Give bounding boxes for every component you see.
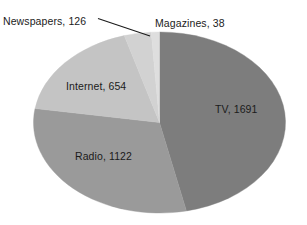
pie-chart-canvas: [0, 0, 307, 225]
slice-label-radio: Radio, 1122: [75, 151, 132, 162]
slice-label-newspapers: Newspapers, 126: [3, 16, 86, 27]
pie-slice-group: [34, 32, 286, 213]
slice-label-internet: Internet, 654: [66, 81, 126, 92]
slice-label-tv: TV, 1691: [215, 104, 257, 115]
pie-chart: Newspapers, 126 Magazines, 38 TV, 1691 I…: [0, 0, 307, 225]
newspapers-leader-line: [98, 19, 150, 37]
slice-label-magazines: Magazines, 38: [155, 18, 225, 29]
